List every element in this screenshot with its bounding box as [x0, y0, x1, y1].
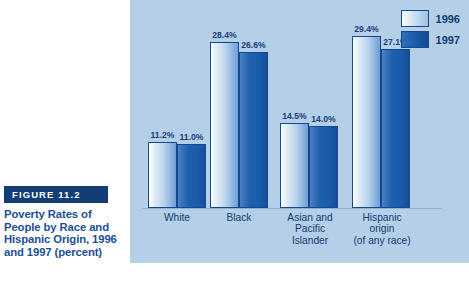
bar-1996[interactable]: 28.4%: [210, 42, 239, 208]
legend-item-1996[interactable]: 1996: [401, 10, 460, 27]
bar-value-label: 14.5%: [282, 111, 306, 121]
bar-1996[interactable]: 29.4%: [352, 36, 381, 208]
bar-value-label: 11.2%: [151, 130, 175, 140]
figure-caption-text: Poverty Rates of People by Race and Hisp…: [4, 208, 124, 258]
bar-rect: [352, 36, 381, 208]
chart-panel: 11.2%11.0%White28.4%26.6%Black14.5%14.0%…: [130, 0, 469, 263]
figure-container: FIGURE 11.2 Poverty Rates of People by R…: [0, 0, 469, 282]
bar-rect: [309, 126, 338, 208]
category-label: Hispanicorigin(of any race): [337, 212, 427, 246]
category-label-line: origin: [337, 223, 427, 234]
figure-caption-block: FIGURE 11.2 Poverty Rates of People by R…: [4, 186, 124, 258]
bar-value-label: 11.0%: [180, 132, 204, 142]
bar-group: 28.4%26.6%: [210, 42, 268, 208]
legend-label-1996: 1996: [436, 13, 460, 25]
figure-number-badge: FIGURE 11.2: [4, 186, 108, 203]
bar-value-label: 29.4%: [354, 24, 378, 34]
bar-rect: [381, 49, 410, 208]
bar-1996[interactable]: 11.2%: [148, 142, 177, 208]
bar-1997[interactable]: 27.1%: [381, 49, 410, 208]
chart-legend: 19961997: [401, 10, 460, 48]
bar-rect: [239, 52, 268, 208]
category-label-line: Hispanic: [337, 212, 427, 223]
bar-value-label: 26.6%: [241, 40, 265, 50]
legend-label-1997: 1997: [436, 34, 460, 46]
bar-value-label: 28.4%: [212, 30, 236, 40]
bar-rect: [280, 123, 309, 208]
bar-value-label: 14.0%: [311, 114, 335, 124]
bar-group: 29.4%27.1%: [352, 36, 410, 208]
bar-1997[interactable]: 14.0%: [309, 126, 338, 208]
legend-swatch-1997: [401, 31, 429, 48]
bar-group: 11.2%11.0%: [148, 142, 206, 208]
category-label-line: (of any race): [337, 235, 427, 246]
axis-baseline: [142, 208, 442, 209]
bar-1997[interactable]: 26.6%: [239, 52, 268, 208]
legend-item-1997[interactable]: 1997: [401, 31, 460, 48]
bar-group: 14.5%14.0%: [280, 123, 338, 208]
bar-rect: [148, 142, 177, 208]
bar-1996[interactable]: 14.5%: [280, 123, 309, 208]
legend-swatch-1996: [401, 10, 429, 27]
bar-rect: [177, 144, 206, 208]
bar-1997[interactable]: 11.0%: [177, 144, 206, 208]
bar-rect: [210, 42, 239, 208]
